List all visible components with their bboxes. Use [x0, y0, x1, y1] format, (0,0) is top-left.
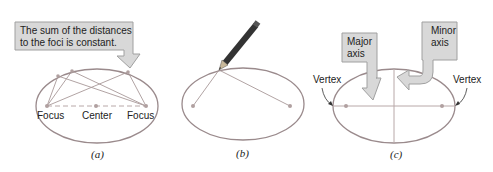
focus-dot-left-c: [344, 104, 348, 108]
focus-dot-left-b: [191, 104, 195, 108]
caption-b: (b): [236, 147, 249, 160]
panel-b: (b): [182, 22, 304, 160]
right-focus-label: Focus: [127, 110, 154, 121]
pencil-icon: [219, 22, 258, 70]
left-vertex-label: Vertex: [313, 74, 341, 85]
center-dot: [94, 104, 98, 108]
focus-dot-right-b: [288, 104, 292, 108]
focus-dot-right-c: [440, 104, 444, 108]
minor-axis-label-line2: axis: [431, 37, 449, 48]
minor-axis-label-line1: Minor: [431, 25, 457, 36]
left-vertex-arrowhead: [328, 101, 333, 106]
ellipse-diagram: The sum of the distances to the foci is …: [0, 0, 493, 172]
panel-a: The sum of the distances to the foci is …: [15, 22, 158, 161]
right-vertex-label: Vertex: [453, 74, 481, 85]
callout-text-line1: The sum of the distances: [20, 25, 132, 36]
left-focus-label: Focus: [37, 110, 64, 121]
caption-a: (a): [91, 148, 104, 161]
left-focus-dot: [45, 104, 49, 108]
center-label: Center: [82, 110, 113, 121]
right-focus-dot: [144, 104, 148, 108]
right-vertex-arrowhead: [455, 101, 460, 106]
major-axis-label-line1: Major: [347, 36, 373, 47]
caption-c: (c): [390, 148, 403, 161]
major-axis-label-line2: axis: [347, 48, 365, 59]
callout-text-line2: to the foci is constant.: [20, 37, 117, 48]
panel-c: Major axis Minor axis Vertex Vertex (c): [313, 22, 481, 161]
